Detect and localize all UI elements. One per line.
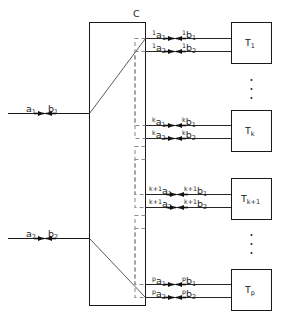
fanout-diagonal-lower bbox=[90, 239, 146, 298]
channel-k-label-b2: kb2 bbox=[182, 125, 196, 141]
dashed-bracket-6 bbox=[135, 229, 146, 298]
diagram-vector-layer bbox=[0, 0, 289, 329]
fanout-diagonal-upper bbox=[90, 39, 146, 114]
dashed-bracket-5 bbox=[135, 216, 146, 285]
channel-1-label-a2: 1a2 bbox=[152, 38, 166, 54]
central-block-label: C bbox=[133, 9, 140, 19]
channel-k1-label-b2: k+1b2 bbox=[184, 194, 207, 210]
channel-k1-label-a2: k+1a2 bbox=[149, 194, 172, 210]
channel-p-label-a2: pa2 bbox=[152, 284, 166, 300]
input-marker-group bbox=[34, 114, 56, 239]
input-label-b2: b2 bbox=[48, 224, 58, 240]
input-label-b1: b1 bbox=[48, 99, 58, 115]
input-label-a1: a1 bbox=[26, 99, 36, 115]
block-diagram-figure: C a1 b1 a2 b2 1a1 1b1 1a2 1b2 ka1 kb1 ka… bbox=[0, 0, 289, 329]
terminal-block-p-label: Tp bbox=[245, 285, 255, 296]
channel-marker-group bbox=[164, 39, 188, 298]
terminal-block-k-label: Tk bbox=[245, 126, 255, 137]
channel-p-label-b2: pb2 bbox=[182, 284, 196, 300]
terminal-block-1-label: T1 bbox=[245, 38, 255, 49]
channel-k-label-a2: ka2 bbox=[152, 125, 166, 141]
channel-1-label-b2: 1b2 bbox=[182, 38, 196, 54]
dashed-bracket-3 bbox=[135, 147, 146, 195]
dashed-bracket-4 bbox=[135, 160, 146, 208]
central-block-outline bbox=[90, 23, 146, 306]
ellipsis-dots bbox=[250, 79, 252, 254]
terminal-block-k1-label: Tk+1 bbox=[241, 194, 260, 205]
input-label-a2: a2 bbox=[26, 224, 36, 240]
